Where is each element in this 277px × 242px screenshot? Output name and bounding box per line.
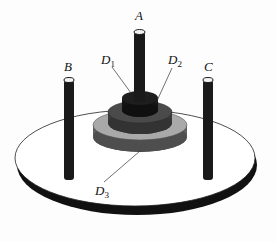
leader-d1 — [112, 67, 131, 93]
peg-c — [203, 78, 213, 181]
peg-a-shaft — [134, 32, 145, 102]
peg-c-top — [203, 78, 213, 83]
label-peg-b: B — [64, 59, 72, 74]
peg-c-shaft — [203, 80, 213, 180]
label-peg-c: C — [204, 59, 213, 74]
peg-b — [64, 78, 74, 181]
peg-b-top — [64, 78, 74, 83]
label-disc-d1: D1 — [100, 52, 115, 69]
label-disc-d2: D2 — [167, 52, 182, 69]
peg-b-shaft — [64, 80, 74, 180]
diagram-canvas: A B C D1 D2 D3 — [0, 0, 277, 242]
label-peg-a: A — [134, 8, 143, 23]
leader-d2 — [156, 68, 172, 103]
peg-a-top — [134, 30, 145, 35]
tower-of-hanoi-diagram: A B C D1 D2 D3 — [0, 0, 277, 242]
peg-a — [134, 30, 145, 103]
disc-d1-bottom — [122, 103, 158, 117]
